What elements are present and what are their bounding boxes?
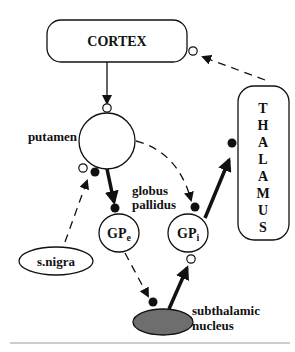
stn-ellipse [133, 309, 193, 335]
dashed-line [65, 181, 87, 242]
thick-line [107, 169, 114, 202]
filled-circle-terminal [228, 139, 237, 148]
filled-circle-terminal [111, 204, 120, 213]
open-circle-terminal [103, 104, 111, 112]
gpi-node: GPi [168, 214, 208, 252]
thalamus-letter: M [256, 186, 269, 201]
putamen-node: putamen [28, 113, 135, 169]
open-circle-terminal [189, 47, 197, 55]
dashed-line [125, 253, 148, 296]
thalamus-letter: T [258, 101, 268, 116]
gpi-label: GPi [177, 226, 199, 243]
thick-line [205, 160, 229, 218]
stn-label-line2: nucleus [192, 318, 234, 333]
stn-label-line1: subthalamic [192, 303, 260, 318]
open-circle-terminal [79, 164, 87, 172]
cortex-label: CORTEX [87, 34, 146, 49]
gpe-sub: e [126, 232, 131, 243]
basal-ganglia-diagram: CORTEX putamen T H A L A M U S globus [0, 0, 295, 352]
stn-node: subthalamic nucleus [133, 303, 260, 335]
putamen-label: putamen [28, 129, 78, 144]
snigra-node: s.nigra [19, 247, 93, 275]
pallidus-label: pallidus [132, 197, 176, 212]
stn-to-gpi-connection [169, 255, 195, 309]
putamen-to-gpe-connection [107, 169, 120, 213]
thalamus-letter: A [258, 169, 269, 184]
putamen-circle [79, 113, 135, 169]
thalamus-letter: A [258, 135, 269, 150]
gpi-sub: i [196, 232, 199, 243]
globus-label: globus [132, 183, 168, 198]
snigra-label: s.nigra [37, 254, 75, 269]
filled-circle-terminal [149, 298, 158, 307]
thick-line [169, 268, 187, 309]
gpe-main: GP [107, 226, 127, 241]
cortex-to-putamen-connection [103, 62, 111, 112]
thalamus-node: T H A L A M U S [238, 86, 289, 240]
thalamus-to-cortex-connection [189, 47, 265, 80]
thalamus-letter: L [258, 152, 267, 167]
cortex-node: CORTEX [47, 20, 187, 62]
gpe-node: GPe [99, 214, 139, 252]
thalamus-letter: H [258, 118, 269, 133]
globus-pallidus-label: globus pallidus [132, 183, 176, 212]
thalamus-letter: S [259, 220, 267, 235]
open-circle-terminal [187, 255, 195, 263]
filled-circle-terminal [91, 168, 100, 177]
thalamus-letter: U [258, 203, 268, 218]
dashed-line [203, 57, 265, 80]
snigra-to-putamen-connection [65, 164, 100, 242]
gpe-to-stn-connection [125, 253, 158, 307]
filled-circle-terminal [191, 203, 200, 212]
gpi-to-thalamus-connection [205, 139, 237, 219]
gpi-main: GP [177, 226, 197, 241]
